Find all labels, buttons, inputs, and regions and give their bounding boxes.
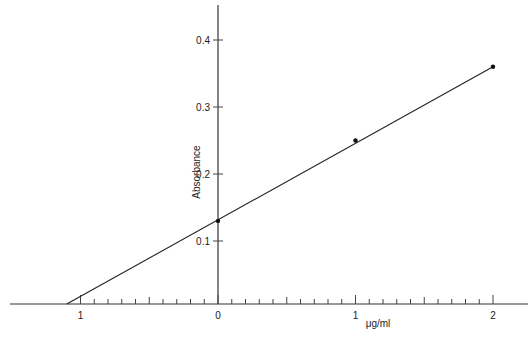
x-tick-label: 0 (215, 310, 221, 321)
y-axis-label: Absorbance (191, 145, 202, 199)
x-axis-label: μg/ml (366, 318, 391, 329)
x-tick-label: 1 (353, 310, 359, 321)
data-point (353, 138, 357, 142)
y-tick-label: 0.1 (196, 236, 210, 247)
axes (10, 5, 528, 304)
tick-labels: 10120.10.20.30.4 (78, 35, 497, 322)
tick-marks (81, 40, 494, 304)
data-point (491, 65, 495, 69)
y-tick-label: 0.3 (196, 102, 210, 113)
y-tick-label: 0.4 (196, 35, 210, 46)
x-tick-label: 2 (490, 310, 496, 321)
data-series (67, 65, 495, 304)
x-tick-label: 1 (78, 310, 84, 321)
data-point (216, 219, 220, 223)
chart-canvas: 10120.10.20.30.4 Absorbance μg/ml (0, 0, 532, 338)
regression-line (67, 67, 493, 304)
